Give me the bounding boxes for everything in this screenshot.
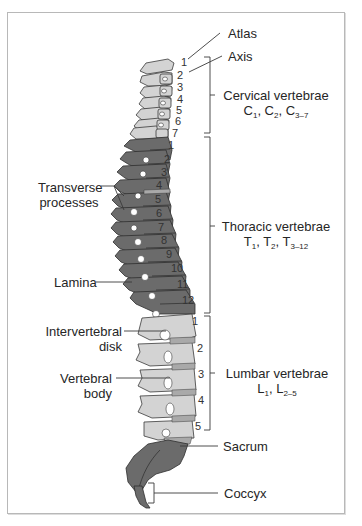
lumbar-number: 5: [195, 420, 201, 432]
thoracic-number: 5: [155, 193, 161, 205]
thoracic-number: 12: [182, 294, 194, 306]
thoracic-name: Thoracic vertebrae: [216, 219, 336, 234]
label-lamina: Lamina: [54, 275, 97, 290]
label-cervical: Cervical vertebrae C1, C2, C3–7: [216, 88, 336, 118]
lumbar-number: 2: [197, 342, 203, 354]
lumbar-formula: L1, L2–5: [218, 381, 336, 396]
thoracic-number: 3: [161, 166, 167, 178]
label-axis: Axis: [228, 49, 253, 64]
label-vertebral-body: Vertebral body: [40, 371, 112, 401]
thoracic-number: 11: [177, 278, 188, 290]
label-transverse-processes: Transverse processes: [38, 180, 100, 210]
cervical-number: 2: [177, 69, 183, 81]
thoracic-number: 4: [156, 179, 162, 191]
cervical-name: Cervical vertebrae: [216, 88, 336, 103]
lumbar-name: Lumbar vertebrae: [218, 366, 336, 381]
label-thoracic: Thoracic vertebrae T1, T2, T3–12: [216, 219, 336, 249]
thoracic-number: 10: [171, 262, 183, 274]
label-atlas: Atlas: [228, 26, 257, 41]
thoracic-number: 9: [166, 248, 172, 260]
lumbar-number: 3: [198, 368, 204, 380]
cervical-number: 1: [181, 56, 187, 68]
label-intervertebral-disk: Intervertebral disk: [30, 324, 122, 354]
sacrum-coccyx: [126, 440, 188, 508]
thoracic-number: 6: [156, 207, 162, 219]
lumbar-number: 1: [192, 315, 198, 327]
label-lumbar: Lumbar vertebrae L1, L2–5: [218, 366, 336, 396]
lumbar-vertebrae: [136, 314, 196, 445]
cervical-number: 3: [177, 81, 183, 93]
lumbar-number: 4: [198, 394, 204, 406]
thoracic-vertebrae: [111, 137, 195, 318]
thoracic-number: 2: [164, 153, 170, 165]
cervical-formula: C1, C2, C3–7: [216, 103, 336, 118]
thoracic-number: 8: [161, 234, 167, 246]
label-sacrum: Sacrum: [223, 439, 268, 454]
cervical-number: 6: [175, 115, 181, 127]
cervical-vertebrae: [130, 59, 174, 139]
thoracic-formula: T1, T2, T3–12: [216, 234, 336, 249]
thoracic-number: 1: [168, 139, 174, 151]
label-coccyx: Coccyx: [224, 486, 267, 501]
cervical-number: 7: [172, 127, 178, 139]
thoracic-number: 7: [158, 221, 164, 233]
